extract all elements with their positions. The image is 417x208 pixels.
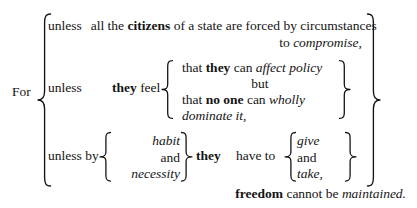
closing-rest: cannot be bbox=[283, 186, 342, 201]
left-stack-item-2: necessity bbox=[112, 166, 180, 183]
branch-3-connective: unless by bbox=[48, 148, 99, 163]
branch-1-line1-bold: citizens bbox=[128, 18, 171, 33]
branch-2-items: that they can affect policy but that no … bbox=[182, 60, 338, 124]
closing-line: freedom cannot be maintained. bbox=[0, 186, 406, 201]
branch-2-item-2: that no one can wholly bbox=[182, 92, 338, 108]
give-left-brace bbox=[283, 131, 297, 183]
item0-bold: they bbox=[206, 60, 231, 75]
branch-3-left-stack: habit and necessity bbox=[112, 133, 180, 183]
item0-italic: affect policy bbox=[256, 60, 322, 75]
habit-left-brace bbox=[98, 131, 112, 183]
branch-1-line2-a: to bbox=[279, 35, 293, 50]
branch-2-item-1: but bbox=[182, 76, 338, 92]
inner-right-brace-feel bbox=[338, 59, 352, 120]
branch-2-verb: feel bbox=[137, 80, 161, 95]
branch-2-item-0: that they can affect policy bbox=[182, 60, 338, 76]
lead-word: For bbox=[12, 84, 31, 99]
left-stack-item-1: and bbox=[112, 150, 180, 167]
branch-1-line1-b: of a state are forced by circumstances bbox=[170, 18, 377, 33]
item2-italic: wholly bbox=[269, 92, 305, 107]
closing-italic-tail: maintained. bbox=[342, 186, 406, 201]
branch-2-subject-verb: they feel bbox=[112, 80, 160, 95]
give-right-brace bbox=[344, 131, 358, 183]
branch-3-subject: they bbox=[196, 148, 221, 163]
branch-3-verb: have to bbox=[236, 148, 275, 163]
diagram-canvas: For unlessall the citizens of a state ar… bbox=[0, 0, 417, 208]
right-stack-item-1: and bbox=[297, 150, 349, 167]
branch-2-item-3: dominate it, bbox=[182, 108, 338, 124]
item2-bold: no one bbox=[206, 92, 244, 107]
branch-3-right-stack: give and take, bbox=[297, 133, 349, 183]
branch-1-line1-a: all the bbox=[91, 18, 128, 33]
item2-b: can bbox=[244, 92, 269, 107]
left-stack-item-0: habit bbox=[112, 133, 180, 150]
item2-a: that bbox=[182, 92, 206, 107]
branch-1-line-2: to compromise, bbox=[48, 35, 362, 50]
right-stack-item-2: take, bbox=[297, 166, 349, 183]
outer-right-brace bbox=[366, 12, 382, 188]
right-stack-item-0: give bbox=[297, 133, 349, 150]
branch-1-line2-italic: compromise, bbox=[293, 35, 362, 50]
branch-1-connective: unless bbox=[48, 18, 82, 33]
branch-2-connective: unless bbox=[48, 80, 82, 95]
branch-1-line-1: unlessall the citizens of a state are fo… bbox=[48, 18, 377, 33]
item0-b: can bbox=[230, 60, 255, 75]
closing-bold-word: freedom bbox=[235, 186, 283, 201]
habit-right-brace bbox=[180, 131, 194, 183]
item0-a: that bbox=[182, 60, 206, 75]
branch-2-subject: they bbox=[112, 80, 137, 95]
inner-left-brace-feel bbox=[160, 59, 174, 120]
